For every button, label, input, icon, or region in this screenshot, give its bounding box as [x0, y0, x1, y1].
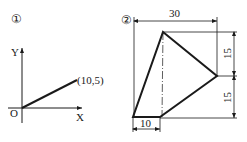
dimension-top-width: 30 [169, 7, 181, 19]
dimension-bottom-width: 10 [140, 117, 152, 129]
center-line [162, 32, 163, 117]
y-axis-label: Y [11, 46, 19, 58]
origin-label: O [10, 107, 18, 119]
vector-line [22, 80, 77, 108]
figure-2-dimensioned-shape: ② 30 15 15 10 [121, 7, 237, 132]
x-axis-label: X [76, 111, 84, 123]
figure-2-marker: ② [121, 13, 132, 27]
figure-1-marker: ① [11, 12, 22, 26]
shape-outline [133, 32, 217, 117]
diagram-canvas: ① Y X O (10,5) ② 30 15 15 10 [0, 0, 247, 142]
point-label: (10,5) [77, 74, 104, 87]
dimension-right-lower-height: 15 [221, 92, 233, 104]
figure-1-coordinate-plot: ① Y X O (10,5) [8, 12, 104, 123]
dimension-right-upper-height: 15 [221, 48, 233, 60]
